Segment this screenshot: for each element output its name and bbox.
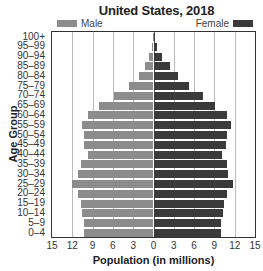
bar-female [154, 82, 190, 90]
x-tick-label: 6 [184, 240, 204, 251]
bar-female [154, 102, 216, 110]
bar-female [154, 121, 231, 129]
bar-female [154, 131, 227, 139]
x-tick-label: 0 [144, 240, 164, 251]
x-tick-label: 9 [83, 240, 103, 251]
bar-female [154, 53, 163, 61]
bar-female [154, 229, 222, 237]
bar-male [84, 219, 153, 227]
x-tick-label: 6 [103, 240, 123, 251]
chart-title: United States, 2018 [0, 3, 263, 18]
x-tick-label: 12 [62, 240, 82, 251]
bar-male [84, 131, 153, 139]
legend-male-swatch [57, 20, 77, 27]
x-tick-label: 15 [245, 240, 263, 251]
x-tick-label: 12 [225, 240, 245, 251]
bar-male [78, 170, 153, 178]
bar-female [154, 219, 222, 227]
bar-female [154, 209, 223, 217]
x-axis-title: Population (in millions) [51, 254, 256, 266]
bar-female [154, 141, 226, 149]
bar-male [84, 229, 153, 237]
bar-male [82, 121, 153, 129]
bar-male [82, 209, 153, 217]
gridline [235, 32, 236, 237]
bar-male [78, 190, 153, 198]
bar-female [154, 151, 222, 159]
bar-female [154, 111, 227, 119]
bar-male [88, 151, 154, 159]
bar-female [154, 200, 224, 208]
bar-male [129, 82, 153, 90]
legend-female-swatch [233, 20, 253, 27]
bar-female [154, 33, 155, 41]
bar-female [154, 160, 227, 168]
legend-female: Female [196, 18, 253, 29]
bar-female [154, 72, 178, 80]
bar-female [154, 92, 203, 100]
x-tick-label: 15 [42, 240, 62, 251]
bar-female [154, 62, 171, 70]
bar-male [84, 141, 153, 149]
x-tick-label: 3 [164, 240, 184, 251]
bar-male [88, 111, 154, 119]
legend-male-label: Male [81, 18, 103, 29]
bar-female [154, 180, 233, 188]
bar-male [114, 92, 153, 100]
bar-male [139, 72, 153, 80]
bar-female [154, 170, 228, 178]
plot-area [51, 31, 256, 238]
bar-male [72, 180, 153, 188]
y-tick-label: 0–4 [28, 228, 45, 238]
legend-male: Male [57, 18, 103, 29]
legend-female-label: Female [196, 18, 229, 29]
bar-male [145, 62, 153, 70]
bar-male [81, 200, 153, 208]
gridline [72, 32, 73, 237]
bar-female [154, 190, 227, 198]
x-tick-label: 3 [123, 240, 143, 251]
bar-male [81, 160, 153, 168]
x-tick-label: 9 [204, 240, 224, 251]
bar-male [99, 102, 153, 110]
bar-female [154, 43, 157, 51]
